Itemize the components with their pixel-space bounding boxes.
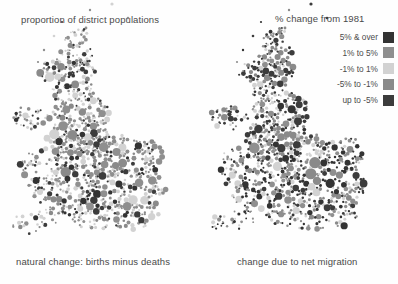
district-circle bbox=[289, 223, 291, 225]
district-circle bbox=[288, 205, 290, 207]
district-circle bbox=[314, 216, 317, 219]
district-circle bbox=[145, 186, 147, 188]
district-circle bbox=[264, 48, 267, 51]
district-circle bbox=[328, 201, 331, 204]
district-circle bbox=[46, 115, 52, 121]
district-circle bbox=[135, 140, 137, 142]
district-circle bbox=[90, 88, 92, 90]
district-circle bbox=[128, 185, 133, 190]
district-circle bbox=[262, 60, 265, 63]
district-circle bbox=[98, 208, 100, 210]
district-circle bbox=[236, 189, 241, 194]
district-circle bbox=[275, 33, 278, 36]
district-circle bbox=[86, 149, 88, 151]
district-circle bbox=[89, 221, 91, 223]
district-circle bbox=[68, 205, 73, 210]
district-circle bbox=[32, 115, 34, 117]
district-circle bbox=[355, 144, 360, 149]
district-circle bbox=[239, 152, 241, 154]
district-circle bbox=[83, 63, 86, 66]
district-circle bbox=[281, 170, 285, 174]
district-circle bbox=[49, 209, 51, 211]
district-circle bbox=[322, 216, 325, 219]
district-circle bbox=[116, 211, 120, 215]
district-circle bbox=[15, 122, 17, 124]
district-circle bbox=[99, 172, 107, 180]
district-circle bbox=[59, 211, 61, 213]
district-circle bbox=[223, 215, 226, 218]
district-circle bbox=[122, 154, 125, 157]
district-circle bbox=[144, 188, 147, 191]
district-circle bbox=[118, 157, 120, 159]
district-circle bbox=[243, 116, 246, 119]
district-circle bbox=[285, 178, 287, 180]
district-circle bbox=[78, 46, 80, 48]
district-circle bbox=[65, 157, 68, 160]
district-circle bbox=[54, 214, 56, 216]
district-circle bbox=[272, 118, 275, 121]
district-circle bbox=[251, 77, 255, 81]
district-circle bbox=[94, 183, 96, 185]
district-circle bbox=[61, 110, 63, 112]
district-circle bbox=[62, 204, 65, 207]
district-circle bbox=[270, 46, 274, 50]
district-circle bbox=[95, 186, 97, 188]
district-circle bbox=[277, 113, 279, 115]
district-circle bbox=[38, 213, 40, 215]
district-circle bbox=[290, 160, 292, 162]
district-circle bbox=[313, 149, 315, 151]
district-circle bbox=[21, 215, 25, 219]
district-circle bbox=[261, 170, 264, 173]
district-circle bbox=[152, 162, 154, 164]
district-circle bbox=[306, 202, 308, 204]
district-circle bbox=[261, 58, 263, 60]
district-circle bbox=[292, 98, 295, 101]
district-circle bbox=[74, 109, 76, 111]
district-circle bbox=[337, 159, 339, 161]
district-circle bbox=[266, 196, 271, 201]
district-circle bbox=[85, 57, 88, 60]
district-circle bbox=[244, 139, 248, 143]
district-circle bbox=[284, 213, 286, 215]
district-circle bbox=[240, 118, 244, 122]
district-circle bbox=[232, 150, 234, 152]
district-circle bbox=[93, 218, 96, 221]
district-circle bbox=[219, 122, 221, 124]
district-circle bbox=[255, 115, 259, 119]
district-circle bbox=[33, 192, 35, 194]
district-circle bbox=[149, 174, 151, 176]
district-circle bbox=[67, 130, 77, 140]
district-circle bbox=[60, 166, 63, 169]
district-circle bbox=[272, 123, 274, 125]
district-circle bbox=[305, 136, 308, 139]
district-circle bbox=[282, 89, 284, 91]
district-circle bbox=[298, 147, 301, 150]
district-circle bbox=[14, 112, 17, 115]
district-circle bbox=[92, 148, 94, 150]
district-circle bbox=[285, 127, 288, 130]
district-circle bbox=[348, 186, 351, 189]
district-circle bbox=[87, 140, 93, 146]
district-circle bbox=[152, 165, 155, 168]
district-circle bbox=[342, 201, 344, 203]
legend-swatch bbox=[383, 47, 394, 58]
district-circle bbox=[108, 136, 110, 138]
district-circle bbox=[276, 61, 280, 65]
district-circle bbox=[89, 189, 91, 191]
district-circle bbox=[136, 149, 141, 154]
district-circle bbox=[78, 57, 80, 59]
district-circle bbox=[314, 226, 320, 232]
district-circle bbox=[86, 145, 90, 149]
district-circle bbox=[129, 190, 132, 193]
district-circle bbox=[268, 215, 271, 218]
district-circle bbox=[361, 156, 363, 158]
district-circle bbox=[232, 122, 234, 124]
district-circle bbox=[302, 128, 306, 132]
district-circle bbox=[54, 123, 56, 125]
district-circle bbox=[263, 37, 265, 39]
island-district-circle bbox=[260, 21, 262, 23]
district-circle bbox=[42, 223, 44, 225]
district-circle bbox=[51, 60, 55, 64]
district-circle bbox=[352, 150, 354, 152]
district-circle bbox=[221, 114, 228, 121]
